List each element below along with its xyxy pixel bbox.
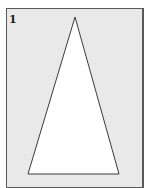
triangle-diagram: [0, 0, 151, 184]
triangle-shape: [28, 17, 119, 174]
